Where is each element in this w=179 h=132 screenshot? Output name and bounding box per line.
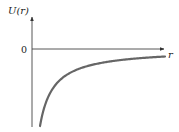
x-axis-label: r (168, 49, 174, 60)
potential-curve (40, 57, 165, 127)
potential-energy-diagram: U(r) 0 r (0, 0, 179, 132)
y-axis-label: U(r) (8, 5, 29, 16)
zero-label: 0 (21, 44, 27, 55)
